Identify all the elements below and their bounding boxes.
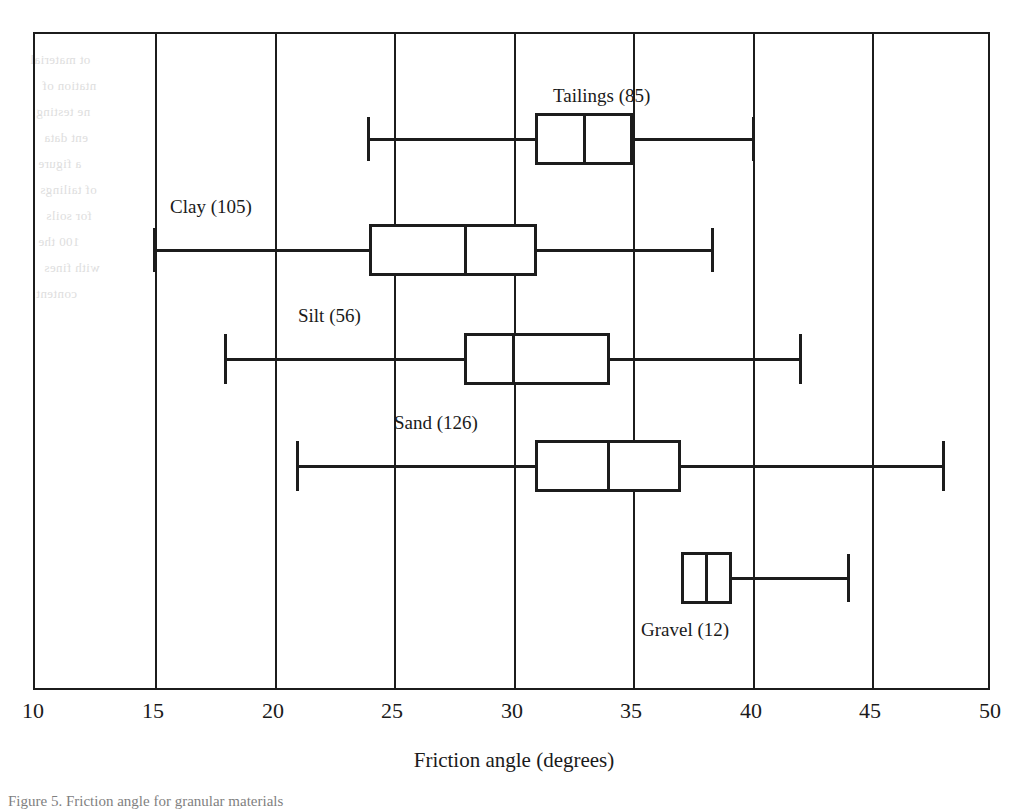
- box-clay: [369, 224, 537, 276]
- x-tick-label-50: 50: [979, 700, 1001, 722]
- whisker-cap-high-clay: [711, 228, 714, 272]
- x-axis-title: Friction angle (degrees): [0, 748, 1028, 773]
- whisker-cap-low-clay: [153, 228, 156, 272]
- gridline-45: [872, 34, 874, 688]
- box-plot-chart: Tailings (85) Clay (105) Silt (56) Sand …: [0, 0, 1028, 810]
- whisker-cap-high-silt: [799, 334, 802, 384]
- median-gravel: [705, 552, 708, 604]
- whisker-cap-low-sand: [296, 441, 299, 491]
- x-tick-label-25: 25: [381, 700, 403, 722]
- gridline-25: [394, 34, 396, 688]
- x-tick-label-20: 20: [262, 700, 284, 722]
- series-label-tailings: Tailings (85): [553, 86, 650, 105]
- series-label-silt: Silt (56): [298, 306, 361, 325]
- whisker-cap-high-tailings: [752, 117, 755, 161]
- median-tailings: [583, 113, 586, 165]
- median-clay: [464, 224, 467, 276]
- x-tick-label-10: 10: [22, 700, 44, 722]
- x-tick-label-40: 40: [740, 700, 762, 722]
- gridline-15: [155, 34, 157, 688]
- whisker-cap-low-silt: [224, 334, 227, 384]
- series-label-gravel: Gravel (12): [641, 620, 729, 639]
- x-tick-label-15: 15: [142, 700, 164, 722]
- series-label-sand: Sand (126): [394, 413, 478, 432]
- whisker-cap-high-gravel: [847, 554, 850, 602]
- median-sand: [607, 440, 610, 492]
- whisker-cap-high-sand: [942, 441, 945, 491]
- whisker-gravel: [729, 577, 848, 580]
- median-silt: [512, 333, 515, 385]
- x-tick-label-35: 35: [620, 700, 642, 722]
- x-tick-label-30: 30: [501, 700, 523, 722]
- box-silt: [464, 333, 610, 385]
- figure-caption: Figure 5. Friction angle for granular ma…: [8, 793, 283, 810]
- gridline-35: [633, 34, 635, 688]
- x-tick-label-45: 45: [859, 700, 881, 722]
- whisker-cap-low-tailings: [367, 117, 370, 161]
- gridline-20: [275, 34, 277, 688]
- series-label-clay: Clay (105): [170, 197, 252, 216]
